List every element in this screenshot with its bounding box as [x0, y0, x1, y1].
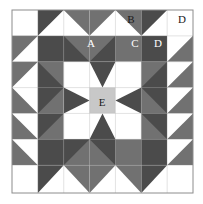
- patch-r3c3: [64, 62, 90, 88]
- patch-r6c2-dark-square: [38, 139, 64, 165]
- patch-r5c3: [64, 113, 90, 139]
- patch-label-a: A: [87, 37, 95, 49]
- patch-label-d-white-square: D: [178, 13, 186, 25]
- patch-r2c2-dark-square: [38, 36, 64, 62]
- patch-r6c5-medium-square: [115, 139, 141, 165]
- patch-r5c5: [115, 113, 141, 139]
- patch-r1c1: [12, 10, 38, 36]
- patch-r7c7: [167, 165, 193, 193]
- patch-label-d-dark-square: D: [154, 37, 162, 49]
- patch-label-b: B: [127, 13, 134, 25]
- patch-r3c5: [115, 62, 141, 88]
- patch-label-c: C: [131, 37, 138, 49]
- patch-r6c6-dark-square: [141, 139, 167, 165]
- quilt-block-canvas: A B C D D E: [0, 0, 203, 204]
- patch-r7c1: [12, 165, 38, 193]
- patch-label-e: E: [99, 96, 106, 108]
- quilt-block-diagram: A B C D D E: [0, 0, 203, 204]
